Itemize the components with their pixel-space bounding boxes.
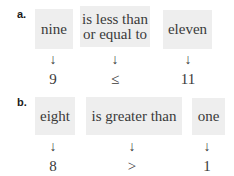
word-box: eleven xyxy=(163,10,212,49)
word-box: is greater than xyxy=(86,97,182,135)
word-box: nine xyxy=(35,9,73,49)
down-arrow-icon: ↓ xyxy=(105,53,125,67)
down-arrow-icon: ↓ xyxy=(197,140,217,154)
down-arrow-icon: ↓ xyxy=(122,140,142,154)
symbol-value: > xyxy=(117,159,147,174)
word-text: eleven xyxy=(168,22,207,37)
symbol-value: 9 xyxy=(38,72,68,87)
symbol-value: 11 xyxy=(173,72,203,87)
example-label: b. xyxy=(17,96,27,108)
word-text-line-1: is less than xyxy=(82,12,148,27)
down-arrow-icon: ↓ xyxy=(178,53,198,67)
word-text: eight xyxy=(40,109,70,124)
word-text: nine xyxy=(41,22,67,37)
word-box: one xyxy=(192,98,225,135)
word-text: is greater than xyxy=(92,109,177,124)
example-label: a. xyxy=(17,8,26,20)
word-box: is less than or equal to xyxy=(80,6,150,47)
symbol-value: 1 xyxy=(192,159,222,174)
down-arrow-icon: ↓ xyxy=(43,140,63,154)
down-arrow-icon: ↓ xyxy=(43,53,63,67)
word-box: eight xyxy=(35,97,75,135)
symbol-value: ≤ xyxy=(100,72,130,87)
word-text: one xyxy=(198,109,220,124)
symbol-value: 8 xyxy=(38,159,68,174)
word-text-line-2: or equal to xyxy=(83,27,147,42)
